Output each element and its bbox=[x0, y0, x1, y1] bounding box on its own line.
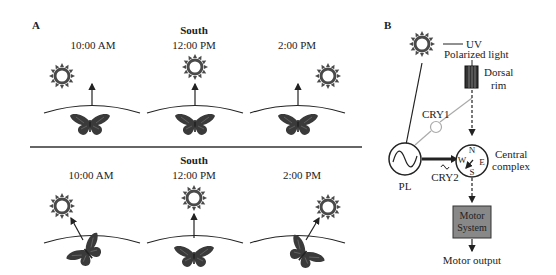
sun-icon bbox=[49, 63, 75, 89]
bottom-south-heading: South bbox=[180, 154, 208, 166]
sun-icon bbox=[409, 31, 435, 57]
cry1-node bbox=[431, 122, 442, 133]
pl-label: PL bbox=[399, 180, 412, 192]
sun-icon bbox=[315, 194, 341, 220]
top-time-2pm: 2:00 PM bbox=[278, 39, 316, 51]
motor-box-line1: Motor bbox=[460, 210, 486, 221]
sun-icon bbox=[182, 54, 208, 80]
compass-s: S bbox=[469, 167, 474, 177]
horizon-curve bbox=[44, 106, 140, 114]
figure: A South 10:00 AM 12:00 PM 2:00 PM South … bbox=[0, 0, 556, 275]
compass-e: E bbox=[479, 157, 485, 167]
bottom-time-2pm: 2:00 PM bbox=[283, 169, 321, 181]
butterfly-icon bbox=[174, 246, 214, 267]
panel-b-label: B bbox=[384, 19, 392, 31]
cry2-wave-icon bbox=[441, 165, 449, 169]
butterfly-icon bbox=[70, 114, 110, 135]
central-label: Central bbox=[495, 148, 527, 160]
butterfly-icon bbox=[282, 233, 326, 275]
rim-label: rim bbox=[491, 79, 507, 91]
top-time-12pm: 12:00 PM bbox=[172, 39, 216, 51]
bottom-row: South 10:00 AM 12:00 PM 2:00 PM bbox=[44, 154, 345, 275]
top-time-10am: 10:00 AM bbox=[71, 39, 116, 51]
horizon-curve bbox=[147, 236, 243, 244]
butterfly-icon bbox=[278, 114, 318, 135]
sun-icon bbox=[315, 63, 341, 89]
top-south-heading: South bbox=[180, 24, 208, 36]
cry2-label: CRY2 bbox=[431, 171, 459, 183]
compass-w: W bbox=[458, 155, 467, 165]
complex-label: complex bbox=[492, 160, 530, 172]
sun-icon bbox=[181, 185, 207, 211]
polarized-light-label: Polarized light bbox=[444, 48, 508, 60]
compass-n: N bbox=[469, 145, 476, 155]
dorsal-label: Dorsal bbox=[484, 66, 513, 78]
dorsal-rim-icon bbox=[465, 66, 478, 88]
motor-box-line2: System bbox=[457, 222, 487, 233]
horizon-curve bbox=[250, 106, 345, 114]
horizon-curve bbox=[147, 106, 243, 114]
sun-icon bbox=[49, 193, 75, 219]
cry1-label: CRY1 bbox=[422, 108, 450, 120]
top-row: South 10:00 AM 12:00 PM 2:00 PM bbox=[44, 24, 345, 135]
motor-output-label: Motor output bbox=[443, 254, 501, 266]
panel-a-label: A bbox=[32, 19, 40, 31]
bottom-time-12pm: 12:00 PM bbox=[172, 169, 216, 181]
butterfly-icon bbox=[65, 231, 109, 273]
butterfly-icon bbox=[175, 114, 215, 135]
bottom-time-10am: 10:00 AM bbox=[69, 169, 114, 181]
